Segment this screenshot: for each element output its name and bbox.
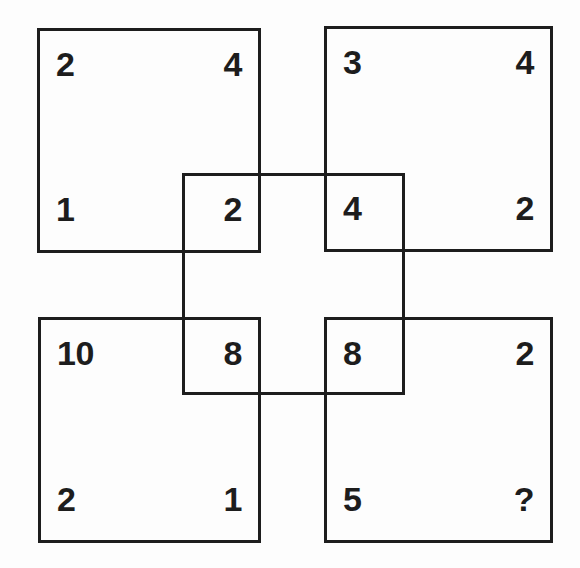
number-top-left: 3 — [343, 45, 361, 79]
number-top-right: 2 — [516, 336, 534, 370]
number-top-left: 10 — [57, 336, 94, 370]
number-bottom-right: 1 — [224, 482, 242, 516]
puzzle-canvas: 2 4 1 2 3 4 4 2 10 8 2 1 8 2 5 ? — [0, 0, 580, 568]
number-top-right: 4 — [516, 45, 534, 79]
number-bottom-right: 2 — [516, 191, 534, 225]
number-bottom-left: 5 — [343, 482, 361, 516]
center-square-outline — [182, 173, 405, 395]
question-mark: ? — [514, 482, 534, 516]
number-top-left: 2 — [56, 47, 74, 81]
number-bottom-left: 2 — [57, 482, 75, 516]
number-top-right: 4 — [224, 47, 242, 81]
number-bottom-left: 1 — [56, 192, 74, 226]
